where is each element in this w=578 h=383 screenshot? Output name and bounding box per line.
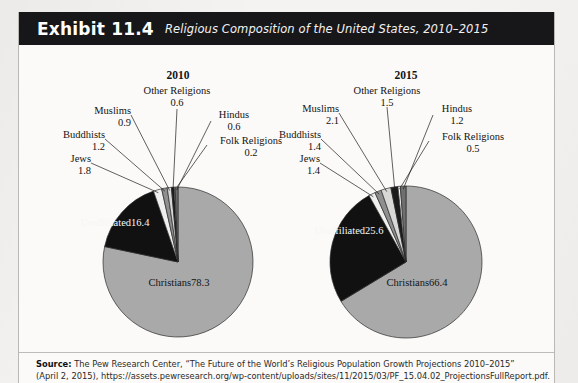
exhibit-title: Religious Composition of the United Stat…	[165, 22, 488, 36]
leader-line-buddhists	[105, 139, 165, 191]
pie-label-folk-religions-2015: Folk Religions0.5	[423, 131, 523, 155]
pie-label-unaffiliated-2015: Unaffiliated25.6	[289, 225, 409, 237]
slice-label-name: Christians	[387, 277, 430, 288]
slice-label-value: 66.4	[429, 277, 447, 288]
slice-label-name: Other Religions	[144, 85, 211, 96]
leader-line-other-religions	[173, 109, 177, 190]
slice-label-value: 16.4	[131, 217, 149, 228]
source-divider	[19, 352, 554, 353]
slice-label-name: Jews	[300, 153, 320, 164]
leader-line-jews	[320, 163, 373, 197]
slice-label-value: 2.1	[277, 115, 339, 127]
source-line-1: Source: The Pew Research Center, “The Fu…	[36, 358, 541, 370]
slice-label-value: 1.2	[427, 115, 487, 127]
slice-label-name: Muslims	[94, 105, 131, 116]
slice-label-name: Hindus	[219, 109, 249, 120]
leader-line-buddhists	[321, 139, 379, 194]
slice-label-name: Unaffiliated	[315, 225, 366, 236]
slice-label-value: 0.6	[127, 97, 227, 109]
pie-label-muslims-2010: Muslims0.9	[69, 105, 131, 129]
slice-label-name: Folk Religions	[442, 131, 504, 142]
slice-label-value: 1.4	[262, 165, 320, 177]
pie-charts-svg	[19, 45, 554, 352]
slice-label-name: Other Religions	[354, 85, 421, 96]
slice-label-value: 78.3	[191, 277, 209, 288]
slice-label-name: Hindus	[442, 103, 472, 114]
slice-label-name: Buddhists	[279, 129, 321, 140]
leader-line-muslims	[131, 115, 170, 190]
source-text-1: The Pew Research Center, “The Future of …	[72, 359, 515, 369]
slice-label-value: 0.9	[69, 117, 131, 129]
pie-label-christians-2010: Christians78.3	[119, 277, 239, 289]
exhibit-number: Exhibit 11.4	[37, 19, 154, 39]
slice-label-value: 0.5	[423, 143, 523, 155]
slice-label-name: Jews	[71, 153, 91, 164]
slice-label-value: 1.8	[29, 165, 91, 177]
exhibit-header-bar: Exhibit 11.4 Religious Composition of th…	[19, 12, 554, 45]
pie-label-other-religions-2015: Other Religions1.5	[337, 85, 437, 109]
source-prefix: Source:	[36, 359, 72, 369]
slice-label-value: 1.5	[337, 97, 437, 109]
pie-label-buddhists-2010: Buddhists1.2	[29, 129, 105, 153]
source-line-2: (April 2, 2015), https://assets.pewresea…	[36, 370, 541, 382]
pie-label-hindus-2015: Hindus1.2	[427, 103, 487, 127]
slice-label-name: Muslims	[302, 103, 339, 114]
slice-label-name: Unaffiliated	[81, 217, 132, 228]
pie-label-buddhists-2015: Buddhists1.4	[249, 129, 321, 153]
slice-label-value: 1.2	[29, 141, 105, 153]
pie-label-christians-2015: Christians66.4	[357, 277, 477, 289]
leader-line-jews	[91, 163, 158, 193]
slice-label-name: Christians	[149, 277, 192, 288]
slice-label-value: 1.4	[249, 141, 321, 153]
pie-label-jews-2015: Jews1.4	[262, 153, 320, 177]
pie-label-jews-2010: Jews1.8	[29, 153, 91, 177]
pie-label-other-religions-2010: Other Religions0.6	[127, 85, 227, 109]
chart-area: 2010 2015 Christians78.3Unaffiliated16.4…	[19, 45, 554, 352]
pie-label-unaffiliated-2010: Unaffiliated16.4	[55, 217, 175, 229]
leader-line-other-religions	[387, 107, 395, 190]
page-background: Exhibit 11.4 Religious Composition of th…	[0, 0, 578, 383]
source-note: Source: The Pew Research Center, “The Fu…	[36, 358, 541, 383]
slice-label-value: 25.6	[365, 225, 383, 236]
pie-label-muslims-2015: Muslims2.1	[277, 103, 339, 127]
slice-label-name: Buddhists	[63, 129, 105, 140]
